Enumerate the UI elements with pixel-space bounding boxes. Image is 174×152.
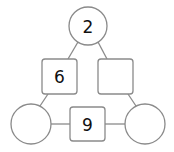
bottom-square: 9 [70,107,105,141]
left-square: 6 [42,59,77,94]
edge-top-right-square [98,42,107,59]
top-circle-value: 2 [83,17,94,37]
number-triangle-diagram: 2 6 9 [0,0,174,152]
left-circle[interactable] [11,104,51,144]
top-circle: 2 [69,7,107,45]
left-square-value: 6 [54,67,65,87]
edge-left-square-left-circle [40,94,48,106]
edge-top-left-square [68,42,78,59]
right-circle[interactable] [125,104,165,144]
bottom-square-value: 9 [82,115,93,135]
edge-right-square-right-circle [128,94,136,106]
right-square[interactable] [98,59,133,94]
